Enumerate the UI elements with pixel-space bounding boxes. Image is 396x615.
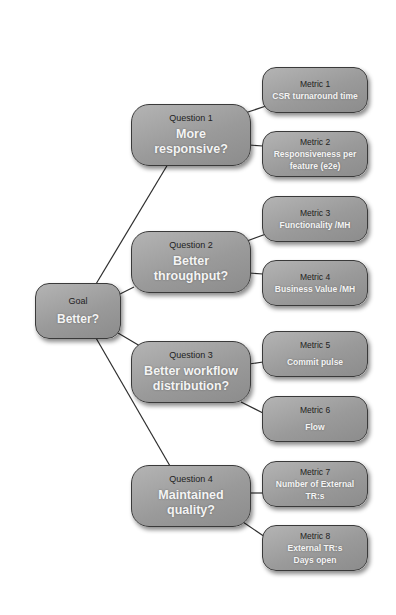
- question-node-3: Question 3 Better workflow distribution?: [131, 341, 251, 403]
- metric-label: Metric 8: [300, 531, 330, 542]
- metric-text: External TR:s Days open: [277, 542, 353, 566]
- connector-q1-m2: [249, 145, 263, 146]
- question-text: More responsive?: [141, 127, 241, 157]
- metric-text: Commit pulse: [287, 356, 343, 368]
- metric-node-2: Metric 2 Responsiveness per feature (e2e…: [262, 131, 368, 177]
- metric-text: Functionality /MH: [275, 219, 355, 231]
- metric-text: Responsiveness per feature (e2e): [265, 148, 365, 172]
- connector-q3-m5: [249, 362, 263, 364]
- question-label: Question 1: [169, 113, 213, 124]
- metric-node-1: Metric 1 CSR turnaround time: [262, 67, 368, 113]
- goal-text: Better?: [57, 312, 99, 327]
- connector-q3-m6: [241, 402, 263, 413]
- question-label: Question 3: [169, 350, 213, 361]
- question-text: Maintained quality?: [141, 488, 241, 518]
- metric-text: Flow: [305, 421, 324, 433]
- metric-label: Metric 3: [300, 208, 330, 219]
- metric-label: Metric 7: [300, 467, 330, 478]
- gqm-diagram: Goal Better? Question 1 More responsive?…: [0, 0, 396, 615]
- metric-label: Metric 5: [300, 340, 330, 351]
- question-node-2: Question 2 Better throughput?: [131, 231, 251, 293]
- metric-node-6: Metric 6 Flow: [262, 396, 368, 442]
- goal-node: Goal Better?: [35, 283, 121, 339]
- question-node-1: Question 1 More responsive?: [131, 104, 251, 166]
- metric-text: Business Value /MH: [267, 283, 363, 295]
- metric-label: Metric 2: [300, 137, 330, 148]
- metric-node-8: Metric 8 External TR:s Days open: [262, 525, 368, 571]
- metric-label: Metric 6: [300, 405, 330, 416]
- metric-node-3: Metric 3 Functionality /MH: [262, 196, 368, 242]
- metric-node-4: Metric 4 Business Value /MH: [262, 260, 368, 306]
- goal-label: Goal: [68, 296, 87, 307]
- question-text: Better workflow distribution?: [132, 364, 250, 394]
- connector-q2-m4: [249, 273, 263, 274]
- metric-node-7: Metric 7 Number of External TR:s: [262, 461, 368, 507]
- question-node-4: Question 4 Maintained quality?: [131, 465, 251, 527]
- metric-text: CSR turnaround time: [267, 90, 363, 102]
- metric-text: Number of External TR:s: [275, 478, 355, 502]
- metric-node-5: Metric 5 Commit pulse: [262, 331, 368, 377]
- question-text: Better throughput?: [141, 254, 241, 284]
- question-label: Question 4: [169, 474, 213, 485]
- metric-label: Metric 4: [300, 272, 330, 283]
- question-label: Question 2: [169, 240, 213, 251]
- metric-label: Metric 1: [300, 79, 330, 90]
